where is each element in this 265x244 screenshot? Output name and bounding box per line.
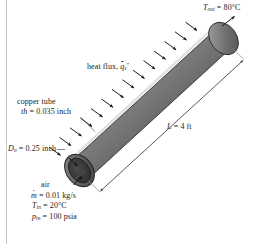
tube-body <box>58 17 244 193</box>
inlet-pressure-value: 100 psia <box>49 212 77 221</box>
outer-diameter-equals: = <box>17 144 26 153</box>
heat-flux-superscript: ″ <box>127 62 130 68</box>
dim-extension-far <box>233 49 245 60</box>
thickness-value: 0.035 inch <box>36 107 71 116</box>
outer-diameter-value: 0.25 inch <box>26 144 57 153</box>
heat-flux-symbol: q <box>120 62 124 72</box>
heat-flux-text: heat flux, <box>87 62 120 71</box>
label-length: L = 4 ft <box>167 122 192 132</box>
outlet-temperature-subscript: out <box>208 6 215 12</box>
outlet-temperature-equals: = <box>215 3 224 12</box>
label-outer-diameter: Do = 0.25 inch — <box>8 144 65 155</box>
label-inlet-pressure: pin = 100 psia <box>32 212 77 223</box>
inlet-pressure-equals: = <box>41 212 50 221</box>
dim-extension-near <box>89 181 101 192</box>
leader-copper-tube <box>81 117 96 132</box>
inlet-temperature-equals: = <box>41 201 50 210</box>
outlet-temperature-value: 80°C <box>224 3 241 12</box>
copper-tube-text: copper tube <box>17 97 56 106</box>
mass-flow-equals: = <box>37 191 46 200</box>
fluid-text: air <box>41 180 50 189</box>
outer-diameter-dash: — <box>56 144 65 153</box>
mass-flow-symbol: m <box>31 191 37 201</box>
label-heat-flux: heat flux, qs″ <box>87 60 129 73</box>
label-inlet-temperature: Tin = 20°C <box>32 201 67 212</box>
label-wall-thickness: th = 0.035 inch <box>21 107 71 117</box>
thickness-equals: = <box>27 107 36 116</box>
label-copper-tube: copper tube <box>17 97 56 107</box>
heat-transfer-figure: Tout = 80°C heat flux, qs″ copper tube t… <box>0 0 265 244</box>
mass-flow-value: 0.01 kg/s <box>46 191 76 200</box>
length-value: 4 ft <box>180 122 191 131</box>
label-mass-flow-rate: m = 0.01 kg/s <box>31 191 76 201</box>
inlet-temperature-value: 20°C <box>50 201 67 210</box>
label-outlet-temperature: Tout = 80°C <box>203 3 241 14</box>
label-fluid: air <box>41 180 50 190</box>
